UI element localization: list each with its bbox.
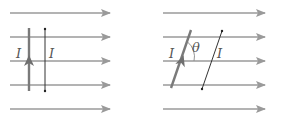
magnetic-field-diagram: I I I θ I [0,0,298,125]
angle-label-theta: θ [192,40,200,55]
current-label-thick-right: I [168,46,175,61]
current-label-thin-right: I [216,46,223,61]
current-label-thick-left: I [15,46,22,61]
current-label-thin-left: I [48,46,55,61]
field-lines-left [10,13,110,109]
